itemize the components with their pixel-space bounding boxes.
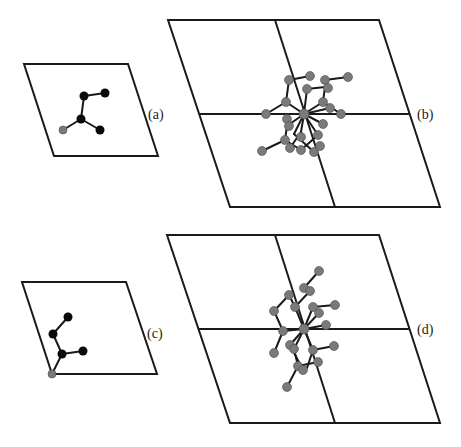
molecule-c [48,313,88,379]
unit-cell-a [24,64,158,156]
panel-d: (d) [167,235,440,423]
molecule-a [59,89,110,135]
figure-canvas: (a) [0,0,461,447]
panel-label-b: (b) [417,107,434,123]
panel-a: (a) [24,64,164,156]
panel-label-a: (a) [148,107,164,123]
panel-label-c: (c) [147,326,163,342]
panel-c: (c) [22,282,163,378]
panel-b: (b) [168,20,440,207]
unit-cell-c [22,282,157,374]
panel-label-d: (d) [417,322,434,338]
